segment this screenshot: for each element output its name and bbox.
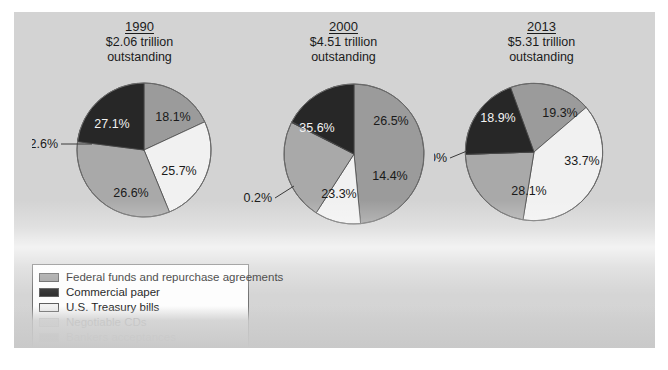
slice-federal-funds-2000: [354, 84, 424, 224]
legend-item-bankers-acceptances: Bankers acceptances: [39, 330, 242, 344]
legend-label-commercial-paper: Commercial paper: [66, 286, 160, 298]
pie-chart-1990: 18.1% 25.7% 26.6% 27.1% 2.6%: [32, 70, 247, 245]
panel-year-2000: 2000: [329, 19, 358, 34]
figure-frame: 1990 $2.06 trillion outstanding: [14, 12, 655, 348]
legend-item-treasury-bills: U.S. Treasury bills: [39, 300, 242, 314]
legend-label-bankers-acceptances: Bankers acceptances: [66, 331, 176, 343]
slice-label-federal-funds-2000: 26.5%: [373, 114, 408, 128]
panel-year-2013: 2013: [527, 19, 556, 34]
panel-amount-1990: $2.06 trillion: [32, 35, 247, 50]
panel-sub-1990: outstanding: [32, 50, 247, 65]
callout-bankers-acceptances-1990: 2.6%: [32, 137, 58, 151]
legend-swatch-federal-funds: [39, 273, 59, 282]
slice-label-commercial-paper-2013: 18.9%: [480, 111, 515, 125]
panel-amount-2013: $5.31 trillion: [434, 35, 649, 50]
legend-label-federal-funds: Federal funds and repurchase agreements: [66, 271, 283, 283]
legend-swatch-treasury-bills: [39, 303, 59, 312]
callout-bankers-acceptances-2000: 0.2%: [244, 191, 273, 205]
panel-header-2000: 2000 $4.51 trillion outstanding: [236, 18, 451, 65]
slice-label-negotiable-cds-2013: 28.1%: [511, 184, 546, 198]
panel-year-1990: 1990: [125, 19, 154, 34]
panel-header-1990: 1990 $2.06 trillion outstanding: [32, 18, 247, 65]
legend-label-negotiable-cds: Negotiable CDs: [66, 316, 147, 328]
slice-label-federal-funds-2013: 19.3%: [542, 106, 577, 120]
slice-label-treasury-bills-2000: 14.4%: [372, 169, 407, 183]
leader-line-bankers-acceptances-2013: [450, 151, 467, 158]
panel-sub-2013: outstanding: [434, 50, 649, 65]
pie-panel-1990: 1990 $2.06 trillion outstanding: [32, 18, 247, 258]
pie-wrap-2013: 19.3% 33.7% 28.1% 18.9% 0.0%: [434, 70, 649, 250]
legend-swatch-bankers-acceptances: [39, 333, 59, 342]
slice-label-negotiable-cds-1990: 26.6%: [113, 186, 148, 200]
legend-item-commercial-paper: Commercial paper: [39, 285, 242, 299]
legend-swatch-commercial-paper: [39, 288, 59, 297]
panel-sub-2000: outstanding: [236, 50, 451, 65]
pie-wrap-1990: 18.1% 25.7% 26.6% 27.1% 2.6%: [32, 70, 247, 250]
slice-label-federal-funds-1990: 18.1%: [155, 110, 190, 124]
leader-line-bankers-acceptances-2000: [275, 186, 294, 198]
pie-chart-2000: 26.5% 14.4% 23.3% 35.6% 0.2%: [236, 70, 451, 245]
pie-chart-2013: 19.3% 33.7% 28.1% 18.9% 0.0%: [434, 70, 649, 245]
legend-item-negotiable-cds: Negotiable CDs: [39, 315, 242, 329]
legend-item-federal-funds: Federal funds and repurchase agreements: [39, 270, 242, 284]
callout-bankers-acceptances-2013: 0.0%: [434, 151, 447, 165]
pie-wrap-2000: 26.5% 14.4% 23.3% 35.6% 0.2%: [236, 70, 451, 250]
panel-amount-2000: $4.51 trillion: [236, 35, 451, 50]
slice-label-commercial-paper-1990: 27.1%: [94, 117, 129, 131]
slice-label-negotiable-cds-2000: 23.3%: [321, 187, 356, 201]
legend-swatch-negotiable-cds: [39, 318, 59, 327]
chart-legend: Federal funds and repurchase agreements …: [32, 264, 249, 348]
slice-label-commercial-paper-2000: 35.6%: [299, 121, 334, 135]
panel-header-2013: 2013 $5.31 trillion outstanding: [434, 18, 649, 65]
slice-label-treasury-bills-2013: 33.7%: [564, 154, 599, 168]
pie-panel-2000: 2000 $4.51 trillion outstanding: [236, 18, 451, 258]
legend-label-treasury-bills: U.S. Treasury bills: [66, 301, 159, 313]
pie-panel-2013: 2013 $5.31 trillion outstanding: [434, 18, 649, 258]
slice-label-treasury-bills-1990: 25.7%: [161, 164, 196, 178]
